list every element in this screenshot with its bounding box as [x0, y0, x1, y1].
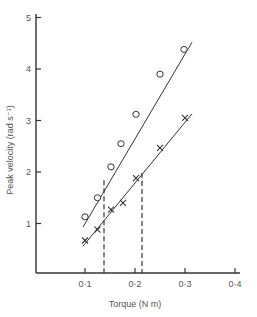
- y-axis-label: Peak velocity (rad s⁻¹): [5, 105, 15, 195]
- cross-marker: [182, 115, 188, 121]
- x-tick-label: 0·1: [78, 279, 91, 289]
- cross-marker: [95, 227, 101, 233]
- x-axis-label: Torque (N m): [109, 299, 162, 309]
- axis-ticks: 123450·10·20·30·4: [26, 13, 242, 290]
- circle-marker: [118, 141, 124, 147]
- y-tick-label: 1: [26, 219, 31, 229]
- y-tick-label: 2: [26, 167, 31, 177]
- x-tick-label: 0·4: [228, 279, 241, 289]
- chart: 123450·10·20·30·4 Torque (N m) Peak velo…: [0, 0, 257, 317]
- fit-lines: [83, 42, 192, 246]
- axes: [36, 14, 240, 273]
- cross-marker: [133, 175, 139, 181]
- circle-marker: [94, 195, 100, 201]
- circle-marker: [108, 164, 114, 170]
- circle-marker: [181, 46, 187, 52]
- cross-marker: [157, 145, 163, 151]
- dashed-reference-lines: [104, 173, 142, 273]
- x-tick-label: 0·3: [178, 279, 191, 289]
- x-tick-label: 0·2: [128, 279, 141, 289]
- y-tick-label: 5: [26, 13, 31, 23]
- circle-marker: [133, 111, 139, 117]
- circle-marker: [157, 71, 163, 77]
- circle-marker: [82, 214, 88, 220]
- y-tick-label: 4: [26, 64, 31, 74]
- cross-marker: [120, 200, 126, 206]
- y-tick-label: 3: [26, 116, 31, 126]
